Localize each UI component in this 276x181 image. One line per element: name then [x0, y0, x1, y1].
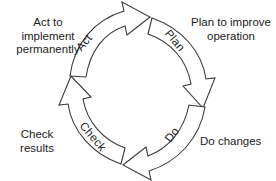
- stage-description-do: Do changes: [200, 135, 276, 149]
- stage-description-plan: Plan to improve operation: [186, 16, 276, 43]
- arrow-left-check-to-act: [59, 76, 125, 164]
- stage-description-check: Check results: [6, 128, 68, 155]
- pdca-cycle-diagram: Plan Do Check Act Act to implement perma…: [0, 0, 276, 181]
- stage-description-act: Act to implement permanently: [2, 16, 94, 57]
- arrow-bottom-do-to-check: [123, 105, 205, 180]
